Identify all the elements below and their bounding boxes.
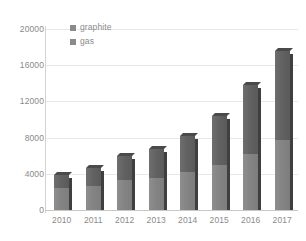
bar-slot [204, 29, 236, 210]
y-tick-label: 20000 [2, 25, 44, 34]
bar-slot [78, 29, 110, 210]
bar-segment-gas [117, 180, 132, 210]
stacked-bar-2011[interactable] [86, 168, 101, 210]
bar-segment-gas [243, 154, 258, 210]
legend-item-gas[interactable]: gas [70, 37, 112, 46]
bar-slot [235, 29, 267, 210]
bar-segment-graphite [149, 149, 164, 178]
bar-side-face [164, 152, 167, 210]
y-tick-label: 12000 [2, 97, 44, 106]
bar-side-face [227, 119, 230, 210]
bar-side-face [101, 171, 104, 210]
bar-side-face [69, 178, 72, 210]
x-axis-ticks: 2010 2011 2012 2013 2014 2015 2016 2017 [46, 214, 298, 230]
legend-item-graphite[interactable]: graphite [70, 23, 112, 32]
bar-top-face [54, 172, 72, 175]
bar-top-face [180, 133, 198, 136]
bar-top-face [86, 165, 104, 168]
bar-segment-graphite [275, 51, 290, 141]
x-axis-line [45, 210, 298, 211]
x-tick-label: 2011 [78, 214, 110, 230]
bar-segment-graphite [54, 175, 69, 189]
y-tick-label: 0 [2, 206, 44, 215]
x-tick-label: 2016 [235, 214, 267, 230]
bar-segment-gas [275, 140, 290, 210]
bar-segment-graphite [86, 168, 101, 185]
bar-top-face [243, 82, 261, 85]
bar-segment-graphite [180, 136, 195, 172]
y-tick-label: 8000 [2, 134, 44, 143]
y-axis-ticks: 20000 16000 12000 8000 4000 0 [0, 0, 44, 241]
stacked-bar-2016[interactable] [243, 85, 258, 210]
stacked-bar-2010[interactable] [54, 175, 69, 210]
legend-swatch-icon [70, 25, 76, 31]
stacked-bar-2014[interactable] [180, 136, 195, 210]
bar-top-face [275, 48, 293, 51]
bar-side-face [290, 54, 293, 210]
bar-slot [46, 29, 78, 210]
bars-container [46, 29, 298, 210]
bar-segment-graphite [212, 116, 227, 165]
bar-side-face [258, 88, 261, 210]
bar-segment-gas [180, 172, 195, 210]
bar-segment-graphite [117, 156, 132, 180]
stacked-bar-2013[interactable] [149, 149, 164, 210]
y-tick-label: 16000 [2, 61, 44, 70]
legend-swatch-icon [70, 39, 76, 45]
bar-segment-gas [212, 165, 227, 210]
bar-slot [141, 29, 173, 210]
bar-slot [109, 29, 141, 210]
bar-segment-gas [54, 188, 69, 210]
bar-chart: 20000 16000 12000 8000 4000 0 [0, 0, 306, 241]
x-tick-label: 2010 [46, 214, 78, 230]
stacked-bar-2015[interactable] [212, 116, 227, 210]
bar-segment-graphite [243, 85, 258, 154]
x-tick-label: 2015 [204, 214, 236, 230]
x-tick-label: 2012 [109, 214, 141, 230]
y-tick-label: 4000 [2, 170, 44, 179]
x-tick-label: 2014 [172, 214, 204, 230]
stacked-bar-2017[interactable] [275, 51, 290, 210]
bar-top-face [149, 146, 167, 149]
legend-label: gas [80, 37, 94, 46]
bar-slot [172, 29, 204, 210]
bar-top-face [117, 153, 135, 156]
bar-segment-gas [149, 178, 164, 210]
stacked-bar-2012[interactable] [117, 156, 132, 210]
chart-legend: graphite gas [70, 23, 112, 46]
bar-side-face [195, 139, 198, 210]
bar-slot [267, 29, 299, 210]
bar-segment-gas [86, 186, 101, 210]
bar-side-face [132, 159, 135, 210]
x-tick-label: 2013 [141, 214, 173, 230]
bar-top-face [212, 113, 230, 116]
x-tick-label: 2017 [267, 214, 299, 230]
legend-label: graphite [80, 23, 112, 32]
